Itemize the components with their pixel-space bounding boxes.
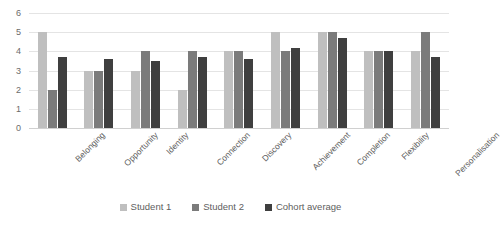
- y-axis-tick-label: 2: [16, 85, 21, 94]
- x-axis-tick-label: Belonging: [73, 130, 107, 164]
- x-axis-tick-label: Achievement: [310, 130, 352, 172]
- chart-legend: Student 1Student 2Cohort average: [0, 202, 461, 212]
- bar: [94, 71, 103, 129]
- bar: [84, 71, 93, 129]
- bar-group: [309, 13, 356, 128]
- bar: [384, 51, 393, 128]
- gridline-0: [29, 128, 449, 129]
- x-axis-tick-label: Discovery: [260, 130, 293, 163]
- y-axis-tick-label: 4: [16, 47, 21, 56]
- legend-item[interactable]: Cohort average: [265, 202, 341, 212]
- legend-swatch-icon: [120, 204, 127, 211]
- bar: [188, 51, 197, 128]
- bar: [271, 32, 280, 128]
- x-axis-tick-label: Identity: [164, 130, 190, 156]
- y-axis: 0123456: [0, 13, 26, 128]
- legend-item-label: Cohort average: [276, 202, 341, 212]
- bar-group: [216, 13, 263, 128]
- bar: [38, 32, 47, 128]
- bar: [318, 32, 327, 128]
- bar-group: [122, 13, 169, 128]
- bar: [411, 51, 420, 128]
- bar: [178, 90, 187, 128]
- bar-group: [356, 13, 403, 128]
- x-axis-tick-label: Opportunity: [122, 130, 160, 168]
- bar: [151, 61, 160, 128]
- legend-swatch-icon: [265, 204, 272, 211]
- y-axis-tick-label: 1: [16, 104, 21, 113]
- bar: [281, 51, 290, 128]
- bar: [328, 32, 337, 128]
- bar: [224, 51, 233, 128]
- x-axis-tick-label: Personalisation: [453, 130, 501, 178]
- bar: [58, 57, 67, 128]
- legend-item[interactable]: Student 1: [120, 202, 172, 212]
- bar: [234, 51, 243, 128]
- x-axis-tick-label: Connection: [215, 130, 252, 167]
- bar-group: [262, 13, 309, 128]
- x-axis-tick-label: Flexibility: [399, 130, 431, 162]
- bar: [374, 51, 383, 128]
- bar-group: [169, 13, 216, 128]
- legend-item-label: Student 1: [131, 202, 172, 212]
- bar: [198, 57, 207, 128]
- bar-group: [29, 13, 76, 128]
- bar: [338, 38, 347, 128]
- x-axis-tick-label: Completion: [355, 130, 392, 167]
- y-axis-tick-label: 6: [16, 9, 21, 18]
- bar: [131, 71, 140, 129]
- bars-layer: [29, 13, 449, 128]
- y-axis-tick-label: 3: [16, 66, 21, 75]
- y-axis-tick-label: 5: [16, 28, 21, 37]
- legend-item[interactable]: Student 2: [192, 202, 244, 212]
- bar: [291, 48, 300, 129]
- bar: [104, 59, 113, 128]
- bar: [244, 59, 253, 128]
- y-axis-tick-label: 0: [16, 124, 21, 133]
- bar: [141, 51, 150, 128]
- legend-item-label: Student 2: [203, 202, 244, 212]
- x-axis: BelongingOpportunityIdentityConnectionDi…: [29, 130, 449, 192]
- bar: [421, 32, 430, 128]
- bar: [48, 90, 57, 128]
- bar: [364, 51, 373, 128]
- bar: [431, 57, 440, 128]
- bar-group: [76, 13, 123, 128]
- legend-swatch-icon: [192, 204, 199, 211]
- bar-group: [402, 13, 449, 128]
